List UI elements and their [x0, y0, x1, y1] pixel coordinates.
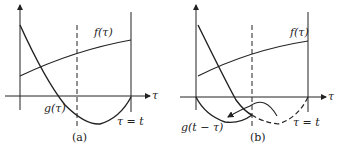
f-label-b: f(τ): [289, 26, 309, 39]
diagram-canvas: f(τ) g(τ) τ τ = t (a) f(τ) g(t − τ) τ τ …: [0, 0, 340, 150]
g-curve: [20, 25, 131, 124]
convolution-diagram: f(τ) g(τ) τ τ = t (a) f(τ) g(t − τ) τ τ …: [0, 0, 340, 150]
tau-axis-label-a: τ: [152, 89, 159, 102]
tau-axis-label-b: τ: [328, 90, 335, 103]
g-original-curve: [198, 25, 252, 115]
end-label-a: τ = t: [117, 115, 144, 128]
g-label-b: g(t − τ): [181, 121, 223, 134]
g-label-a: g(τ): [44, 102, 66, 115]
end-label-b: τ = t: [293, 116, 320, 129]
f-label-a: f(τ): [93, 26, 113, 39]
panel-b: [180, 5, 326, 127]
caption-a: (a): [72, 131, 87, 144]
caption-b: (b): [250, 131, 266, 144]
panel-a: [5, 5, 150, 127]
